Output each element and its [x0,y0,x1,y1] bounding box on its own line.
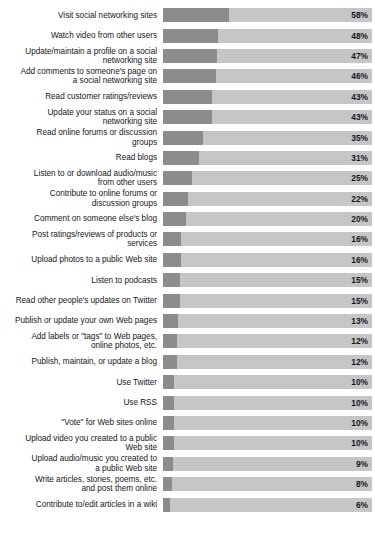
bar-value-label: 15% [351,296,368,306]
bar-track: 25% [163,171,372,185]
bar-fill [163,131,203,145]
bar-category-label: Add comments to someone's page on a soci… [0,67,163,86]
bar-track: 10% [163,416,372,430]
bar-category-label: Update/maintain a profile on a social ne… [0,47,163,66]
bar-fill [163,294,180,308]
chart-row: Update your status on a social networkin… [0,107,372,127]
chart-row: Add labels or "tags" to Web pages, onlin… [0,331,372,351]
bar-category-label: Update your status on a social networkin… [0,108,163,127]
bar-category-label: Add labels or "tags" to Web pages, onlin… [0,332,163,351]
bar-value-label: 31% [351,153,368,163]
bar-track: 8% [163,477,372,491]
bar-category-label: Listen to podcasts [0,276,163,285]
bar-category-label: Contribute to/edit articles in a wiki [0,500,163,509]
bar-fill [163,477,172,491]
chart-row: Write articles, stories, poems, etc. and… [0,474,372,494]
chart-row: Read other people's updates on Twitter15… [0,290,372,310]
bar-track: 16% [163,253,372,267]
bar-value-label: 58% [351,10,368,20]
bar-value-label: 35% [351,133,368,143]
bar-track: 12% [163,334,372,348]
bar-fill [163,171,192,185]
bar-category-label: Upload video you created to a public Web… [0,434,163,453]
bar-value-label: 20% [351,214,368,224]
chart-rows: Visit social networking sites58%Watch vi… [0,5,372,549]
bar-value-label: 16% [351,255,368,265]
bar-fill [163,49,217,63]
chart-row: Contribute to online forums or discussio… [0,189,372,209]
bar-value-label: 48% [351,31,368,41]
bar-category-label: Watch video from other users [0,31,163,40]
chart-row: Read customer ratings/reviews43% [0,87,372,107]
bar-value-label: 9% [356,459,368,469]
bar-fill [163,457,173,471]
bar-value-label: 43% [351,92,368,102]
chart-row: "Vote" for Web sites online10% [0,413,372,433]
bar-fill [163,151,199,165]
chart-row: Upload video you created to a public Web… [0,433,372,453]
bar-category-label: Visit social networking sites [0,11,163,20]
bar-track: 20% [163,212,372,226]
bar-track: 22% [163,192,372,206]
bar-value-label: 10% [351,418,368,428]
bar-category-label: Read other people's updates on Twitter [0,296,163,305]
bar-value-label: 47% [351,51,368,61]
chart-row: Publish or update your own Web pages13% [0,311,372,331]
bar-value-label: 22% [351,194,368,204]
bar-value-label: 12% [351,357,368,367]
chart-row: Upload audio/music you created to a publ… [0,454,372,474]
bar-value-label: 16% [351,234,368,244]
bar-fill [163,29,218,43]
bar-fill [163,212,186,226]
bar-fill [163,253,181,267]
bar-track: 15% [163,294,372,308]
bar-fill [163,436,174,450]
bar-track: 12% [163,355,372,369]
bar-fill [163,232,181,246]
bar-value-label: 43% [351,112,368,122]
bar-category-label: Listen to or download audio/music from o… [0,169,163,188]
bar-track: 58% [163,8,372,22]
bar-value-label: 10% [351,377,368,387]
bar-fill [163,192,188,206]
bar-value-label: 15% [351,275,368,285]
chart-row: Listen to podcasts15% [0,270,372,290]
bar-track: 13% [163,314,372,328]
bar-category-label: Use RSS [0,398,163,407]
bar-track: 35% [163,131,372,145]
bar-category-label: Use Twitter [0,378,163,387]
chart-row: Publish, maintain, or update a blog12% [0,352,372,372]
chart-row: Comment on someone else's blog20% [0,209,372,229]
bar-fill [163,334,177,348]
bar-category-label: Read customer ratings/reviews [0,92,163,101]
chart-row: Contribute to/edit articles in a wiki6% [0,494,372,514]
bar-track: 48% [163,29,372,43]
bar-fill [163,375,174,389]
bar-fill [163,498,170,512]
bar-category-label: Upload audio/music you created to a publ… [0,454,163,473]
bar-category-label: Read online forums or discussion groups [0,128,163,147]
chart-row: Add comments to someone's page on a soci… [0,66,372,86]
bar-track: 6% [163,498,372,512]
bar-track: 10% [163,375,372,389]
bar-category-label: Publish or update your own Web pages [0,316,163,325]
bar-fill [163,69,216,83]
bar-value-label: 10% [351,438,368,448]
horizontal-bar-chart: Visit social networking sites58%Watch vi… [0,0,375,559]
chart-row: Read blogs31% [0,148,372,168]
chart-row: Update/maintain a profile on a social ne… [0,46,372,66]
bar-value-label: 6% [356,500,368,510]
chart-row: Visit social networking sites58% [0,5,372,25]
bar-value-label: 13% [351,316,368,326]
chart-row: Use Twitter10% [0,372,372,392]
bar-fill [163,110,212,124]
bar-track: 9% [163,457,372,471]
chart-row: Read online forums or discussion groups3… [0,127,372,147]
bar-value-label: 10% [351,398,368,408]
bar-value-label: 12% [351,336,368,346]
bar-track: 10% [163,396,372,410]
chart-row: Watch video from other users48% [0,25,372,45]
bar-category-label: Upload photos to a public Web site [0,255,163,264]
bar-value-label: 8% [356,479,368,489]
bar-category-label: Contribute to online forums or discussio… [0,189,163,208]
